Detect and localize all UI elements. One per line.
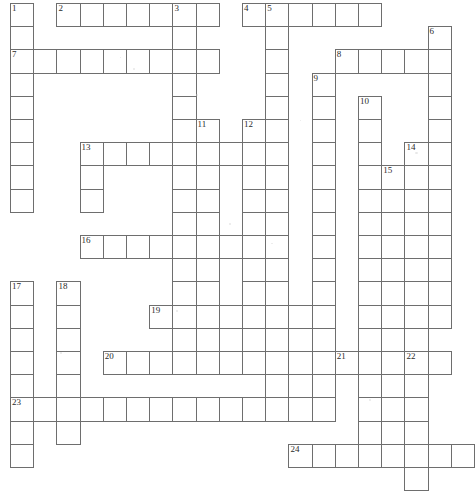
crossword-cell[interactable] — [428, 73, 452, 97]
crossword-cell[interactable] — [381, 397, 405, 421]
crossword-cell[interactable] — [219, 235, 243, 259]
crossword-cell[interactable] — [358, 212, 382, 236]
crossword-cell[interactable] — [172, 26, 196, 50]
crossword-cell[interactable] — [126, 49, 150, 73]
crossword-cell[interactable] — [288, 351, 312, 375]
crossword-cell[interactable] — [404, 328, 428, 352]
crossword-cell[interactable] — [381, 351, 405, 375]
crossword-cell[interactable] — [312, 3, 336, 27]
crossword-cell-start-5[interactable]: 5 — [265, 3, 289, 27]
crossword-cell[interactable] — [428, 258, 452, 282]
crossword-cell[interactable] — [172, 165, 196, 189]
crossword-cell[interactable] — [10, 374, 34, 398]
crossword-cell[interactable] — [404, 467, 428, 491]
crossword-cell[interactable] — [381, 444, 405, 468]
crossword-cell[interactable] — [242, 397, 266, 421]
crossword-cell[interactable] — [404, 281, 428, 305]
crossword-cell[interactable] — [265, 165, 289, 189]
crossword-cell[interactable] — [428, 444, 452, 468]
crossword-cell[interactable] — [10, 119, 34, 143]
crossword-cell[interactable] — [56, 397, 80, 421]
crossword-cell-start-6[interactable]: 6 — [428, 26, 452, 50]
crossword-cell[interactable] — [428, 351, 452, 375]
crossword-cell[interactable] — [358, 258, 382, 282]
crossword-cell[interactable] — [242, 235, 266, 259]
crossword-cell[interactable] — [404, 374, 428, 398]
crossword-cell[interactable] — [196, 142, 220, 166]
crossword-cell[interactable] — [358, 189, 382, 213]
crossword-cell[interactable] — [265, 142, 289, 166]
crossword-cell[interactable] — [126, 142, 150, 166]
crossword-cell[interactable] — [265, 397, 289, 421]
crossword-cell[interactable] — [103, 3, 127, 27]
crossword-cell[interactable] — [103, 142, 127, 166]
crossword-cell[interactable] — [196, 351, 220, 375]
crossword-cell[interactable] — [428, 235, 452, 259]
crossword-cell-start-2[interactable]: 2 — [56, 3, 80, 27]
crossword-cell[interactable] — [172, 96, 196, 120]
crossword-cell[interactable] — [381, 305, 405, 329]
crossword-cell[interactable] — [358, 165, 382, 189]
crossword-cell[interactable] — [242, 258, 266, 282]
crossword-cell-start-24[interactable]: 24 — [288, 444, 312, 468]
crossword-cell[interactable] — [335, 3, 359, 27]
crossword-cell[interactable] — [149, 3, 173, 27]
crossword-cell[interactable] — [219, 142, 243, 166]
crossword-cell[interactable] — [196, 235, 220, 259]
crossword-cell[interactable] — [381, 374, 405, 398]
crossword-cell[interactable] — [381, 189, 405, 213]
crossword-cell[interactable] — [404, 165, 428, 189]
crossword-cell-start-10[interactable]: 10 — [358, 96, 382, 120]
crossword-cell[interactable] — [358, 281, 382, 305]
crossword-cell[interactable] — [10, 305, 34, 329]
crossword-cell-start-8[interactable]: 8 — [335, 49, 359, 73]
crossword-cell[interactable] — [172, 258, 196, 282]
crossword-cell[interactable] — [358, 421, 382, 445]
crossword-cell[interactable] — [358, 305, 382, 329]
crossword-cell[interactable] — [172, 49, 196, 73]
crossword-cell[interactable] — [242, 165, 266, 189]
crossword-cell-start-16[interactable]: 16 — [80, 235, 104, 259]
crossword-cell-start-12[interactable]: 12 — [242, 119, 266, 143]
crossword-cell[interactable] — [312, 212, 336, 236]
crossword-cell[interactable] — [219, 351, 243, 375]
crossword-cell[interactable] — [265, 119, 289, 143]
crossword-cell[interactable] — [381, 281, 405, 305]
crossword-cell[interactable] — [358, 444, 382, 468]
crossword-cell[interactable] — [149, 142, 173, 166]
crossword-cell[interactable] — [381, 235, 405, 259]
crossword-cell[interactable] — [358, 374, 382, 398]
crossword-cell[interactable] — [196, 49, 220, 73]
crossword-cell[interactable] — [404, 258, 428, 282]
crossword-cell[interactable] — [80, 189, 104, 213]
crossword-cell[interactable] — [172, 397, 196, 421]
crossword-cell[interactable] — [56, 351, 80, 375]
crossword-cell-start-4[interactable]: 4 — [242, 3, 266, 27]
crossword-cell[interactable] — [103, 235, 127, 259]
crossword-cell[interactable] — [10, 142, 34, 166]
crossword-cell[interactable] — [312, 374, 336, 398]
crossword-cell[interactable] — [172, 212, 196, 236]
crossword-cell-start-13[interactable]: 13 — [80, 142, 104, 166]
crossword-cell[interactable] — [242, 328, 266, 352]
crossword-cell[interactable] — [126, 235, 150, 259]
crossword-cell[interactable] — [56, 374, 80, 398]
crossword-cell-start-18[interactable]: 18 — [56, 281, 80, 305]
crossword-cell[interactable] — [265, 189, 289, 213]
crossword-cell[interactable] — [172, 189, 196, 213]
crossword-cell[interactable] — [196, 212, 220, 236]
crossword-cell[interactable] — [428, 96, 452, 120]
crossword-cell[interactable] — [312, 328, 336, 352]
crossword-cell[interactable] — [312, 189, 336, 213]
crossword-cell[interactable] — [404, 397, 428, 421]
crossword-cell[interactable] — [381, 212, 405, 236]
crossword-cell[interactable] — [242, 212, 266, 236]
crossword-cell[interactable] — [312, 96, 336, 120]
crossword-cell[interactable] — [428, 142, 452, 166]
crossword-cell[interactable] — [242, 351, 266, 375]
crossword-cell[interactable] — [10, 351, 34, 375]
crossword-cell[interactable] — [149, 397, 173, 421]
crossword-cell[interactable] — [358, 328, 382, 352]
crossword-cell[interactable] — [428, 281, 452, 305]
